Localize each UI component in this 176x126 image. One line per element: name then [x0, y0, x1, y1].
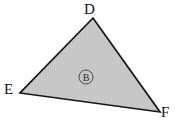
region-label-b: B	[83, 72, 90, 83]
vertex-label-f: F	[161, 105, 169, 120]
vertex-label-d: D	[84, 2, 95, 17]
triangle-def	[20, 18, 160, 112]
vertex-label-e: E	[4, 82, 13, 97]
geometry-figure: B D E F	[0, 0, 176, 126]
triangle-diagram-svg: B	[0, 0, 176, 126]
